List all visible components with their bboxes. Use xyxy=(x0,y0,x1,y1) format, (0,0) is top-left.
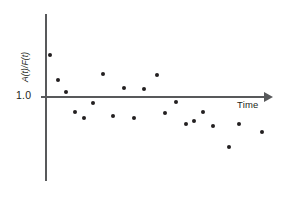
scatter-chart-figure: 1.0 A(t)/F(t) Time xyxy=(0,0,291,198)
data-point xyxy=(64,90,68,94)
data-point xyxy=(201,110,205,114)
data-point xyxy=(260,130,264,134)
data-point xyxy=(101,72,105,76)
data-point xyxy=(184,122,188,126)
data-point xyxy=(111,114,115,118)
data-point xyxy=(227,145,231,149)
y-axis-title: A(t)/F(t) xyxy=(20,39,30,95)
data-point xyxy=(73,110,77,114)
data-point xyxy=(132,116,136,120)
data-point xyxy=(122,86,126,90)
y-axis-tick-mark xyxy=(41,96,49,98)
data-point xyxy=(237,122,241,126)
x-axis-arrow-icon xyxy=(264,92,273,102)
x-axis-title: Time xyxy=(237,99,259,110)
data-point xyxy=(211,124,215,128)
data-point xyxy=(56,78,60,82)
data-point xyxy=(192,119,196,123)
data-point xyxy=(48,53,52,57)
data-point xyxy=(174,100,178,104)
data-point xyxy=(91,101,95,105)
data-point xyxy=(155,73,159,77)
data-point xyxy=(163,111,167,115)
plot-area: 1.0 A(t)/F(t) Time xyxy=(0,0,291,198)
x-axis-line xyxy=(45,96,267,98)
data-point xyxy=(142,87,146,91)
data-point xyxy=(82,116,86,120)
